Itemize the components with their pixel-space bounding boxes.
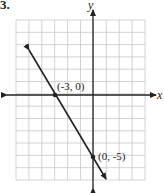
label-point1: (-3, 0) (57, 80, 85, 93)
point-x-intercept (53, 93, 58, 98)
x-axis-label: x (156, 88, 163, 102)
point-y-intercept (91, 155, 96, 160)
grid (16, 20, 145, 180)
label-point2: (0, -5) (98, 150, 126, 163)
y-axis-label: y (87, 0, 94, 12)
coordinate-plane: (-3, 0) (0, -5) x y (0, 0, 164, 193)
